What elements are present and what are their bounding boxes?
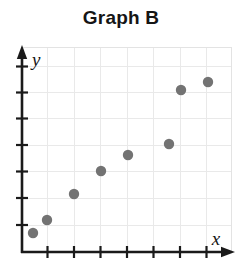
data-point xyxy=(69,189,79,199)
x-axis-label: x xyxy=(211,228,221,249)
data-point xyxy=(28,228,38,238)
data-point xyxy=(96,166,106,176)
data-point xyxy=(203,77,213,87)
data-point xyxy=(123,150,133,160)
y-axis-label: y xyxy=(30,49,41,70)
data-point xyxy=(42,215,52,225)
data-point xyxy=(176,85,186,95)
graph-b-figure: Graph B xyxy=(0,0,242,267)
data-point xyxy=(164,139,174,149)
scatter-plot-canvas: y x xyxy=(0,0,242,267)
